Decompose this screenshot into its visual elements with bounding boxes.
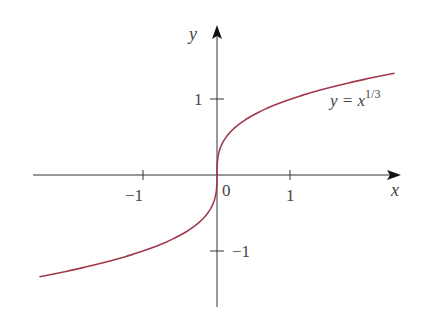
origin-label: 0 [222, 181, 231, 200]
y-tick-label-1: 1 [194, 90, 203, 109]
curve-label-main: y = x [328, 91, 366, 110]
chart: y x −1 1 0 1 −1 y = x1/3 [0, 0, 431, 331]
x-tick-label-neg1: −1 [125, 186, 143, 205]
x-axis-label: x [390, 180, 399, 200]
x-tick-label-1: 1 [286, 186, 295, 205]
y-tick-label-neg1: −1 [232, 242, 250, 261]
y-axis-label: y [187, 24, 197, 44]
curve-label-exponent: 1/3 [365, 87, 380, 101]
curve-label: y = x1/3 [328, 87, 380, 110]
